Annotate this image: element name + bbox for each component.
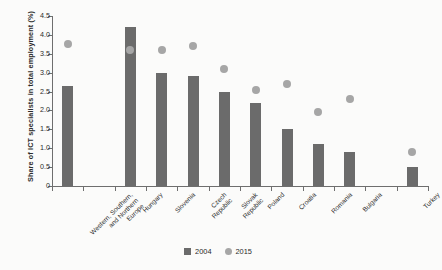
x-tick-mark: [271, 187, 272, 191]
bar: [219, 92, 230, 186]
y-axis-line: [52, 16, 53, 187]
bar: [282, 129, 293, 186]
x-axis-label: SlovakRepublic: [236, 191, 266, 221]
y-tick-label: 3.0: [40, 68, 50, 77]
plot-area: 00.51.01.52.02.53.03.54.04.5: [52, 16, 428, 186]
x-axis-label: Bulgaria: [361, 191, 384, 214]
y-axis-title: Share of ICT specialists in total employ…: [26, 4, 35, 190]
bar: [250, 103, 261, 186]
data-point: [283, 80, 291, 88]
x-tick-mark: [209, 187, 210, 191]
x-tick-mark: [83, 187, 84, 191]
legend-square-icon: [184, 248, 191, 255]
data-point: [408, 148, 416, 156]
legend-circle-icon: [225, 248, 232, 255]
legend-label: 2015: [236, 247, 252, 256]
x-axis-label: Turkey: [422, 191, 442, 211]
y-tick-label: 1.0: [40, 143, 50, 152]
data-point: [64, 40, 72, 48]
bar: [156, 73, 167, 186]
y-tick-label: 2.0: [40, 105, 50, 114]
x-tick-mark: [115, 187, 116, 191]
x-tick-mark: [52, 187, 53, 191]
bar: [188, 76, 199, 186]
legend-label: 2004: [195, 247, 211, 256]
data-point: [346, 95, 354, 103]
x-axis-label: Romania: [330, 191, 354, 215]
legend-item[interactable]: 2015: [225, 247, 252, 256]
y-tick-label: 3.5: [40, 49, 50, 58]
data-point: [189, 42, 197, 50]
x-axis-label: Croatia: [297, 191, 318, 212]
x-tick-mark: [365, 187, 366, 191]
y-tick-label: 1.5: [40, 124, 50, 133]
x-tick-mark: [146, 187, 147, 191]
x-axis-label: Slovenia: [173, 191, 197, 215]
x-axis-label: Poland: [266, 191, 286, 211]
chart-legend: 20042015: [0, 247, 436, 256]
x-tick-mark: [240, 187, 241, 191]
data-point: [220, 65, 228, 73]
y-tick-label: 0: [46, 181, 50, 190]
bar: [313, 144, 324, 186]
legend-item[interactable]: 2004: [184, 247, 211, 256]
data-point: [158, 46, 166, 54]
x-tick-mark: [428, 187, 429, 191]
x-tick-mark: [177, 187, 178, 191]
x-axis-label: Western, Southern,and NorthernEurope: [88, 191, 145, 248]
y-tick-label: 4.5: [40, 11, 50, 20]
x-tick-mark: [397, 187, 398, 191]
x-tick-mark: [334, 187, 335, 191]
data-point: [252, 86, 260, 94]
y-tick-label: 2.5: [40, 87, 50, 96]
y-tick-label: 4.0: [40, 30, 50, 39]
bar: [62, 86, 73, 186]
x-axis-label: CzechRepublic: [205, 191, 235, 221]
x-tick-mark: [303, 187, 304, 191]
bar: [344, 152, 355, 186]
x-axis-label: Hungary: [142, 191, 165, 214]
bar: [407, 167, 418, 186]
data-point: [314, 108, 322, 116]
y-tick-label: 0.5: [40, 162, 50, 171]
